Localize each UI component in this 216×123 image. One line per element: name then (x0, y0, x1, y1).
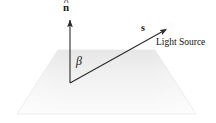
light-vector-label: s (141, 23, 145, 33)
light-source-caption: Light Source (156, 38, 205, 48)
lighting-angle-figure: ^ n s Light Source β (0, 0, 216, 123)
surface-plane-shading (17, 50, 196, 114)
normal-hat-accent: ^ (63, 0, 69, 7)
diagram-canvas (0, 0, 216, 123)
angle-beta-label: β (76, 55, 82, 67)
surface-plane (17, 50, 196, 114)
light-source-glow (165, 22, 175, 32)
normal-vector-label: ^ n (63, 2, 69, 13)
